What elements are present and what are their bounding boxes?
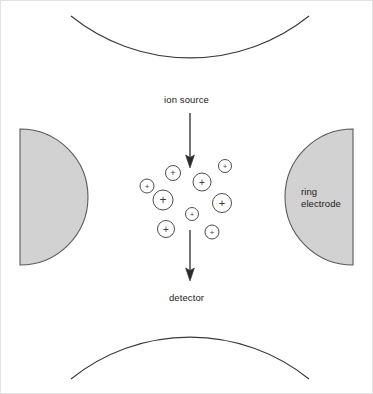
bottom-endcap-electrode xyxy=(71,337,309,379)
ion-charge-symbol: + xyxy=(159,193,166,207)
ion: + xyxy=(186,208,199,221)
ion-charge-symbol: + xyxy=(170,168,175,178)
ring-electrode-label-line1: ring xyxy=(301,186,341,198)
ion: + xyxy=(158,221,175,238)
left-ring-electrode xyxy=(20,129,88,265)
ion-charge-symbol: + xyxy=(210,228,215,237)
ring-electrode-label: ring electrode xyxy=(301,186,341,209)
ion-cloud: +++++++++ xyxy=(140,160,232,240)
ion: + xyxy=(193,173,211,191)
ion-charge-symbol: + xyxy=(163,224,169,235)
diagram-canvas: +++++++++ ion source detector ring elect… xyxy=(0,0,373,394)
ion-source-label: ion source xyxy=(0,94,373,106)
ion-charge-symbol: + xyxy=(219,197,225,209)
ion-charge-symbol: + xyxy=(199,177,205,188)
ion: + xyxy=(205,225,219,239)
ion-charge-symbol: + xyxy=(145,182,150,191)
ion: + xyxy=(219,160,232,173)
ion-charge-symbol: + xyxy=(190,211,194,218)
ion: + xyxy=(140,179,154,193)
ring-electrode-label-line2: electrode xyxy=(301,198,341,210)
detector-arrow xyxy=(186,230,195,281)
ion-charge-symbol: + xyxy=(223,163,227,170)
detector-label: detector xyxy=(0,292,373,304)
ion: + xyxy=(166,166,181,181)
ion: + xyxy=(213,194,232,213)
top-endcap-electrode xyxy=(71,16,309,58)
ion: + xyxy=(153,190,173,210)
ion-source-arrow xyxy=(186,113,195,168)
